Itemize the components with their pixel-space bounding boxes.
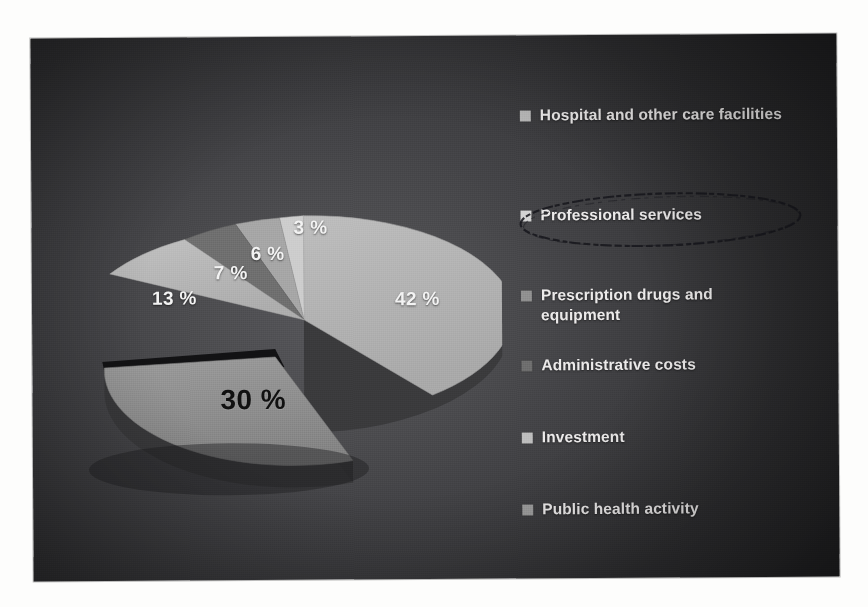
legend-label-professional: Professional services bbox=[540, 204, 702, 225]
legend-item-investment[interactable]: Investment bbox=[522, 426, 837, 448]
pie-chart: 42 % 30 % 13 % 7 % 6 % 3 % bbox=[30, 36, 503, 582]
legend-item-prescription[interactable]: Prescription drugs and equipment bbox=[521, 284, 756, 325]
legend-label-public-health: Public health activity bbox=[542, 498, 699, 519]
pie-chart-svg bbox=[30, 36, 503, 582]
legend-item-hospital[interactable]: Hospital and other care facilities bbox=[520, 104, 835, 126]
legend-item-administrative[interactable]: Administrative costs bbox=[521, 354, 836, 376]
legend-swatch-hospital bbox=[520, 110, 531, 121]
legend-swatch-public-health bbox=[522, 504, 533, 515]
slice-drop-shadow bbox=[89, 442, 369, 496]
legend-label-prescription: Prescription drugs and equipment bbox=[541, 284, 756, 325]
legend-swatch-investment bbox=[522, 432, 533, 443]
legend-label-administrative: Administrative costs bbox=[541, 354, 696, 375]
legend-swatch-administrative bbox=[521, 360, 532, 371]
photo-frame: 42 % 30 % 13 % 7 % 6 % 3 % Hospital and … bbox=[0, 0, 868, 607]
legend-swatch-professional bbox=[520, 210, 531, 221]
legend-item-professional[interactable]: Professional services bbox=[520, 204, 835, 226]
legend-label-investment: Investment bbox=[542, 427, 625, 448]
legend-label-hospital: Hospital and other care facilities bbox=[540, 104, 782, 125]
pie-slice-tops bbox=[103, 214, 503, 466]
legend-item-public-health[interactable]: Public health activity bbox=[522, 498, 837, 520]
chart-legend: Hospital and other care facilities Profe… bbox=[520, 104, 840, 106]
presentation-slide: 42 % 30 % 13 % 7 % 6 % 3 % Hospital and … bbox=[30, 34, 839, 582]
legend-swatch-prescription bbox=[521, 290, 532, 301]
